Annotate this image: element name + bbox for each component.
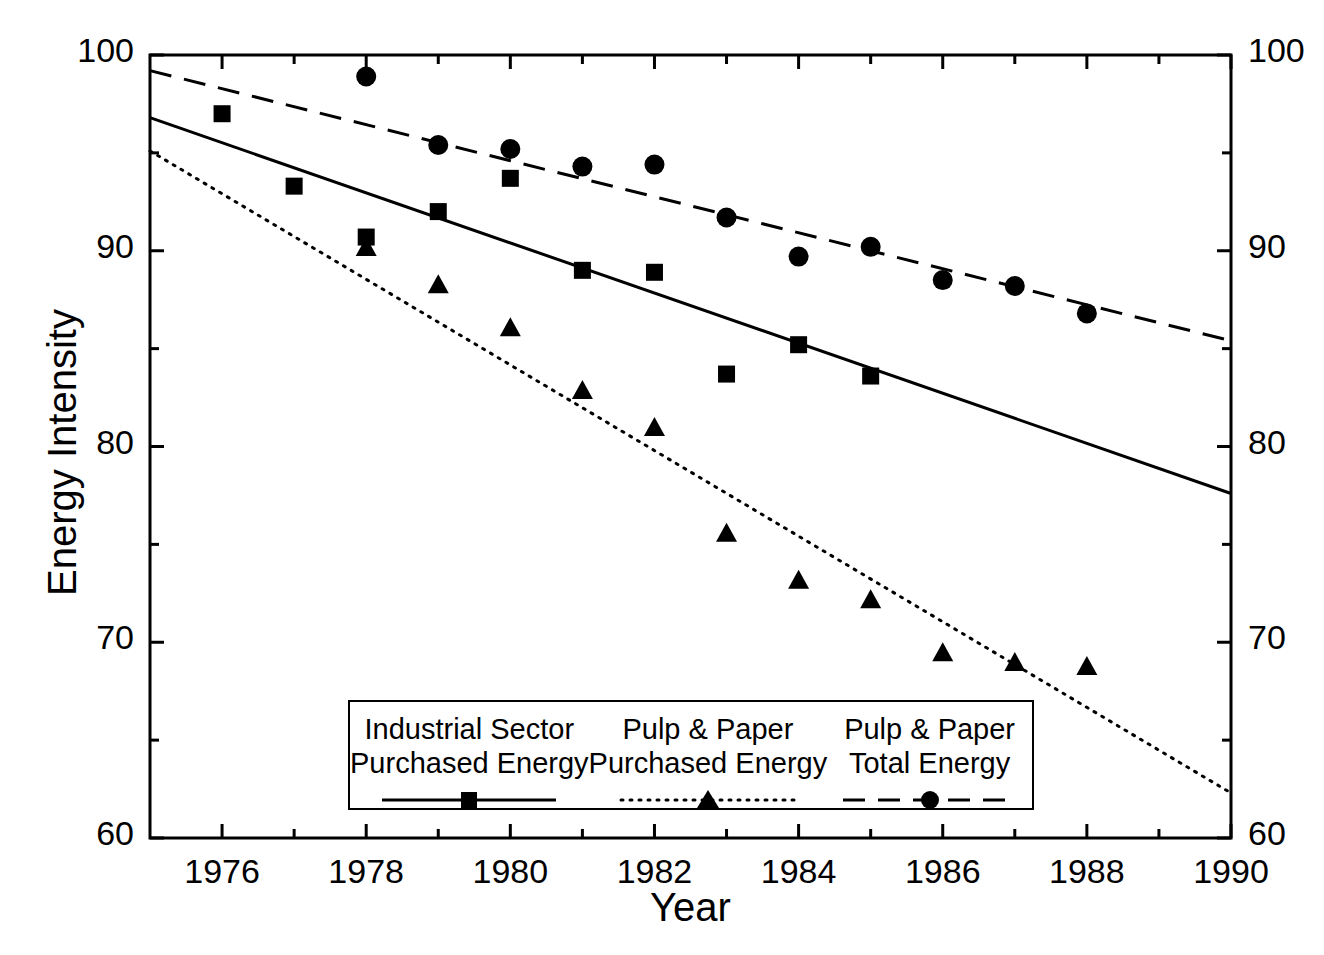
legend-sample-triangle	[613, 788, 803, 812]
x-tick-label-1976: 1976	[184, 852, 260, 891]
data-point-square	[430, 203, 447, 220]
data-point-triangle	[500, 317, 521, 336]
x-tick-label-1978: 1978	[328, 852, 404, 891]
legend-entry-2: Pulp & PaperPurchased Energy	[589, 702, 828, 808]
y-tick-label-right-60: 60	[1248, 814, 1286, 853]
y-tick-label-left-70: 70	[96, 618, 134, 657]
data-point-square	[574, 262, 591, 279]
trend-lines	[150, 71, 1231, 793]
legend-marker-circle	[921, 791, 939, 809]
data-point-square	[502, 170, 519, 187]
data-point-triangle	[644, 417, 665, 436]
data-point-square	[862, 368, 879, 385]
data-point-circle	[428, 135, 448, 155]
y-tick-label-right-90: 90	[1248, 227, 1286, 266]
data-point-circle	[572, 157, 592, 177]
y-tick-label-left-80: 80	[96, 423, 134, 462]
data-point-circle	[789, 247, 809, 267]
y-tick-label-right-70: 70	[1248, 618, 1286, 657]
chart-container: Energy Intensity Year 10090807060 100908…	[0, 0, 1324, 955]
data-markers	[214, 67, 1098, 675]
legend-label-line1: Industrial Sector	[365, 712, 575, 746]
x-tick-label-1982: 1982	[617, 852, 693, 891]
legend-entry-3: Pulp & PaperTotal Energy	[827, 702, 1032, 808]
data-point-square	[286, 178, 303, 195]
y-tick-label-right-80: 80	[1248, 423, 1286, 462]
legend: Industrial SectorPurchased EnergyPulp & …	[348, 700, 1034, 810]
data-point-triangle	[428, 274, 449, 293]
data-point-circle	[500, 139, 520, 159]
x-tick-label-1990: 1990	[1193, 852, 1269, 891]
data-point-triangle	[1004, 652, 1025, 671]
legend-marker-triangle	[697, 790, 719, 808]
legend-label-line1: Pulp & Paper	[622, 712, 793, 746]
data-point-triangle	[716, 523, 737, 542]
legend-sample-square	[374, 788, 564, 812]
x-tick-label-1980: 1980	[473, 852, 549, 891]
legend-entry-1: Industrial SectorPurchased Energy	[350, 702, 589, 808]
legend-label-line2: Total Energy	[849, 746, 1010, 780]
y-tick-label-right-100: 100	[1248, 31, 1305, 70]
data-point-circle	[644, 155, 664, 175]
y-tick-label-left-100: 100	[77, 31, 134, 70]
data-point-circle	[861, 237, 881, 257]
data-point-circle	[1077, 303, 1097, 323]
legend-label-line2: Purchased Energy	[589, 746, 828, 780]
data-point-triangle	[1076, 656, 1097, 675]
x-tick-label-1984: 1984	[761, 852, 837, 891]
legend-label-line2: Purchased Energy	[350, 746, 589, 780]
data-point-triangle	[788, 570, 809, 589]
data-point-square	[646, 264, 663, 281]
y-tick-label-left-90: 90	[96, 227, 134, 266]
data-point-circle	[1005, 276, 1025, 296]
x-tick-label-1986: 1986	[905, 852, 981, 891]
data-point-triangle	[932, 642, 953, 661]
data-point-triangle	[860, 589, 881, 608]
data-point-circle	[717, 207, 737, 227]
x-tick-label-1988: 1988	[1049, 852, 1125, 891]
data-point-circle	[356, 67, 376, 87]
legend-marker-square	[461, 792, 477, 808]
data-point-square	[790, 336, 807, 353]
legend-label-line1: Pulp & Paper	[844, 712, 1015, 746]
data-point-square	[718, 366, 735, 383]
data-point-circle	[933, 270, 953, 290]
data-point-triangle	[572, 380, 593, 399]
data-point-square	[214, 105, 231, 122]
legend-sample-circle	[835, 788, 1025, 812]
y-tick-label-left-60: 60	[96, 814, 134, 853]
